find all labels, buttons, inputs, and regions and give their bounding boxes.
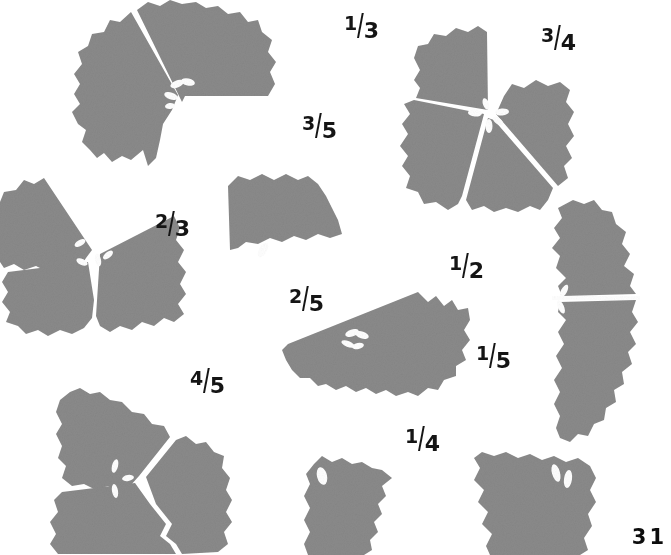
fraction-label-3-4: 3/4: [541, 22, 576, 54]
fraction-numerator: 4: [190, 367, 203, 389]
fraction-numerator: 1: [405, 425, 418, 447]
cookie-bottom-left: [50, 388, 232, 554]
fraction-solidus-icon: /: [554, 22, 561, 52]
fraction-numerator: 1: [344, 12, 357, 34]
wedge-mid-center: [228, 174, 342, 259]
fraction-label-1-2: 1/2: [449, 250, 484, 282]
fraction-denominator: 4: [425, 431, 440, 456]
cookie-illustrations: [0, 0, 671, 555]
fraction-label-3-5: 3/5: [302, 110, 337, 142]
fraction-denominator: 3: [175, 216, 190, 241]
fraction-label-2-5: 2/5: [289, 283, 324, 315]
fraction-label-1-5: 1/5: [476, 340, 511, 372]
fraction-denominator: 4: [561, 30, 576, 55]
fraction-label-1-4: 1/4: [405, 423, 440, 455]
fraction-label-2-3: 2/3: [155, 208, 190, 240]
fraction-solidus-icon: /: [302, 283, 309, 313]
fraction-solidus-icon: /: [168, 208, 175, 238]
fraction-solidus-icon: /: [418, 423, 425, 453]
cookie-top-left: [72, 0, 276, 166]
wedge-bottom-right: [474, 452, 596, 555]
fraction-numerator: 2: [289, 285, 302, 307]
fraction-denominator: 5: [322, 118, 337, 143]
fraction-numerator: 1: [476, 342, 489, 364]
fraction-label-1-3: 1/3: [344, 10, 379, 42]
page-number: 31: [632, 525, 667, 549]
fraction-denominator: 3: [364, 18, 379, 43]
fraction-solidus-icon: /: [357, 10, 364, 40]
fraction-numerator: 3: [541, 24, 554, 46]
fraction-denominator: 2: [469, 258, 484, 283]
fraction-solidus-icon: /: [462, 250, 469, 280]
wedge-bottom-center: [304, 456, 392, 555]
fraction-solidus-icon: /: [315, 110, 322, 140]
fraction-denominator: 5: [210, 373, 225, 398]
worksheet-page: 1/3 3/4 3/5 2/3 1/2 2/5 1/5 4/5 1/4 31: [0, 0, 671, 555]
fraction-denominator: 5: [496, 348, 511, 373]
fraction-solidus-icon: /: [203, 365, 210, 395]
cookie-mid-right: [552, 200, 640, 442]
fraction-numerator: 2: [155, 210, 168, 232]
fraction-numerator: 1: [449, 252, 462, 274]
fraction-solidus-icon: /: [489, 340, 496, 370]
fraction-label-4-5: 4/5: [190, 365, 225, 397]
fraction-denominator: 5: [309, 291, 324, 316]
cookie-mid-left: [0, 178, 186, 336]
fraction-numerator: 3: [302, 112, 315, 134]
